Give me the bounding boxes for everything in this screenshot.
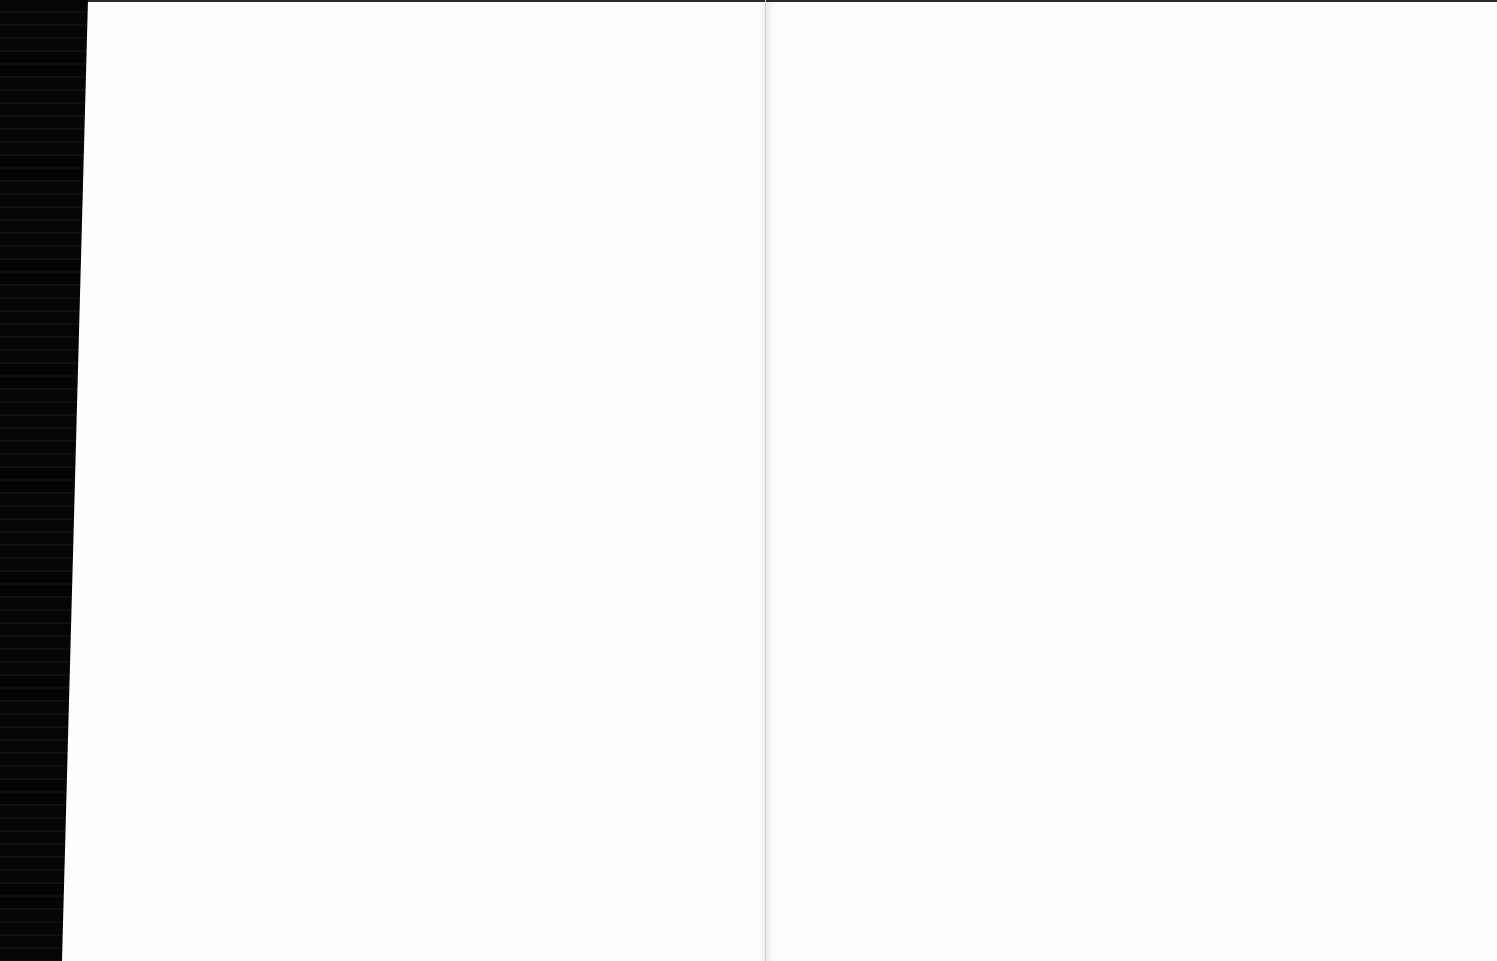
book-spread (62, 0, 1497, 961)
right-page (766, 0, 1497, 961)
left-page (62, 0, 766, 961)
